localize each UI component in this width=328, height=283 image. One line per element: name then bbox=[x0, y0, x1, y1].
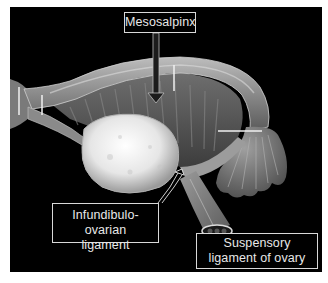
label-infundibulo-line2: ligament bbox=[53, 238, 158, 253]
label-infundibulo-ovarian-ligament: Infundibulo-ovarian ligament bbox=[52, 203, 159, 243]
label-suspensory-line1: Suspensory bbox=[197, 236, 317, 251]
label-suspensory-ligament: Suspensory ligament of ovary bbox=[196, 233, 318, 269]
label-mesosalpinx: Mesosalpinx bbox=[124, 12, 196, 33]
label-infundibulo-line1: Infundibulo-ovarian bbox=[53, 208, 158, 238]
uterus-stump bbox=[10, 79, 32, 129]
label-suspensory-line2: ligament of ovary bbox=[197, 251, 317, 266]
diagram-panel: Mesosalpinx Infundibulo-ovarian ligament… bbox=[10, 7, 322, 272]
label-mesosalpinx-text: Mesosalpinx bbox=[125, 15, 196, 29]
ovary bbox=[82, 114, 179, 193]
